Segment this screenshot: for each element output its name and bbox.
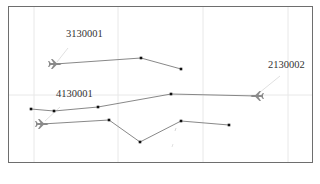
track-point — [139, 141, 142, 144]
flight-label-2130002[interactable]: 2130002 — [268, 59, 305, 70]
airplane-icon[interactable] — [35, 119, 49, 129]
stray-mark — [172, 144, 173, 147]
flight-track-4130001 — [42, 120, 229, 142]
track-point — [228, 124, 231, 127]
flight-label-4130001[interactable]: 4130001 — [56, 88, 93, 99]
airplane-icon[interactable] — [251, 91, 265, 101]
track-point — [170, 93, 173, 96]
leader-line — [259, 76, 280, 93]
label-leader-lines — [45, 48, 280, 121]
flight-map[interactable] — [0, 0, 320, 184]
stray-mark — [175, 128, 176, 131]
track-point — [53, 110, 56, 113]
track-point — [108, 119, 111, 122]
track-point — [180, 120, 183, 123]
track-point — [180, 68, 183, 71]
airplane-icon[interactable] — [48, 59, 62, 69]
track-point — [140, 57, 143, 60]
flight-label-3130001[interactable]: 3130001 — [66, 28, 103, 39]
track-point — [30, 108, 33, 111]
flight-tracks — [30, 57, 257, 144]
track-point — [97, 106, 100, 109]
leader-line — [45, 107, 60, 121]
map-grid — [9, 7, 312, 162]
leader-line — [57, 48, 68, 62]
